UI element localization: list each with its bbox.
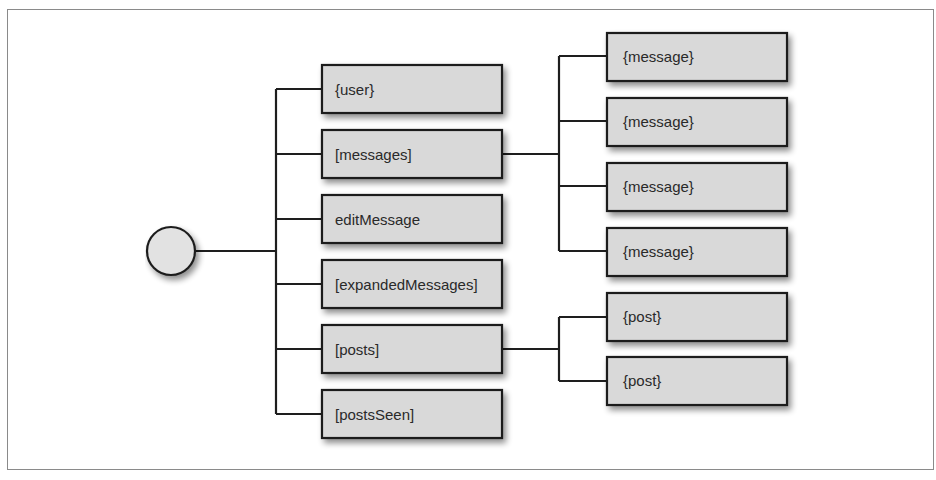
node-label: {message} [623, 178, 694, 195]
node-message-3: {message} [607, 163, 787, 211]
node-label: {post} [623, 372, 661, 389]
root-node [147, 227, 195, 275]
node-posts: [posts] [322, 325, 502, 373]
node-post-1: {post} [607, 293, 787, 341]
node-message-2: {message} [607, 98, 787, 146]
node-messages: [messages] [322, 130, 502, 178]
node-label: {user} [335, 81, 374, 98]
node-label: [postsSeen] [335, 406, 414, 423]
node-user: {user} [322, 65, 502, 113]
node-label: [posts] [335, 341, 379, 358]
node-label: {message} [623, 113, 694, 130]
node-label: {message} [623, 48, 694, 65]
node-message-4: {message} [607, 228, 787, 276]
node-message-1: {message} [607, 33, 787, 81]
node-post-2: {post} [607, 357, 787, 405]
node-label: editMessage [335, 211, 420, 228]
node-edit-message: editMessage [322, 195, 502, 243]
state-tree-diagram: {user} [messages] editMessage [expandedM… [0, 0, 936, 480]
node-expanded-messages: [expandedMessages] [322, 260, 502, 308]
node-posts-seen: [postsSeen] [322, 390, 502, 438]
node-label: [expandedMessages] [335, 276, 478, 293]
node-label: [messages] [335, 146, 412, 163]
node-label: {post} [623, 308, 661, 325]
node-label: {message} [623, 243, 694, 260]
